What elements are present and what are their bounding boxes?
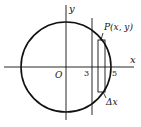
circle-diagram: y x O 3 5 P(x, y) Δx [0,0,141,127]
origin-label: O [55,70,63,80]
delta-x-label: Δx [105,97,118,107]
point-p-label: P(x, y) [103,22,133,32]
y-axis-label: y [68,3,75,14]
tick-5-label: 5 [112,69,117,78]
delta-x-strip [98,40,105,92]
tick-3-label: 3 [84,69,89,78]
x-axis-label: x [130,54,136,65]
